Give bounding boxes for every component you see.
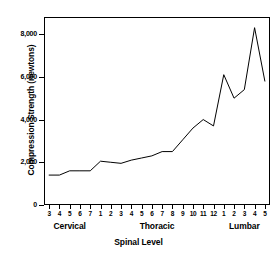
x-axis-tick	[90, 205, 91, 209]
x-axis-tick	[80, 205, 81, 209]
x-axis-tick	[131, 205, 132, 209]
x-axis-tick	[203, 205, 204, 209]
y-axis-tick-label: 0	[33, 201, 37, 208]
x-axis-tick	[101, 205, 102, 209]
x-axis-group-label: Cervical	[30, 221, 110, 231]
plot-area	[44, 17, 270, 205]
x-axis-tick	[172, 205, 173, 209]
y-axis-title: Compression Strength (newtons)	[26, 20, 36, 200]
x-axis-tick	[70, 205, 71, 209]
compression-strength-polyline	[49, 28, 265, 175]
x-axis-tick-label: 5	[259, 210, 271, 217]
y-axis-tick-label: 2,000	[20, 158, 37, 165]
data-series-line	[44, 17, 270, 205]
x-axis-tick	[142, 205, 143, 209]
x-axis-tick	[234, 205, 235, 209]
y-axis-tick-label: 4,000	[20, 116, 37, 123]
x-axis-tick	[193, 205, 194, 209]
x-axis-tick	[265, 205, 266, 209]
y-axis-tick-label: 8,000	[20, 30, 37, 37]
x-axis-group-label: Thoracic	[117, 221, 197, 231]
x-axis-tick	[255, 205, 256, 209]
x-axis-tick	[162, 205, 163, 209]
x-axis-tick	[59, 205, 60, 209]
y-axis-tick-label: 6,000	[20, 73, 37, 80]
x-axis-tick	[244, 205, 245, 209]
x-axis-tick	[224, 205, 225, 209]
x-axis-tick	[152, 205, 153, 209]
y-axis-tick	[39, 205, 44, 206]
x-axis-title: Spinal Level	[0, 237, 277, 247]
chart-figure: Compression Strength (newtons) 02,0004,0…	[0, 0, 277, 255]
x-axis-tick	[183, 205, 184, 209]
x-axis-group-label: Lumbar	[204, 221, 277, 231]
x-axis-tick	[214, 205, 215, 209]
x-axis-tick	[111, 205, 112, 209]
x-axis-tick	[121, 205, 122, 209]
x-axis-tick	[49, 205, 50, 209]
